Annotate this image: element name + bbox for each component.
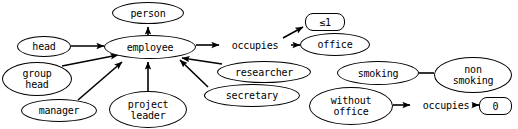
node-occupies-2[interactable]: occupies (411, 97, 481, 113)
edge-researcher-isa-employee (182, 58, 222, 64)
node-person[interactable]: person (112, 2, 184, 24)
node-secretary[interactable]: secretary (204, 84, 300, 107)
node-head[interactable]: head (17, 36, 71, 57)
edge-group-head-isa-employee (62, 55, 118, 66)
node-secretary-label: secretary (226, 90, 278, 101)
node-project-leader-label: project leader (128, 99, 169, 121)
node-occupies-1-label: occupies (232, 40, 279, 51)
node-smoking[interactable]: smoking (337, 61, 419, 85)
node-employee[interactable]: employee (104, 35, 196, 59)
node-office-label: office (318, 39, 353, 50)
node-occupies-2-label: occupies (423, 100, 470, 111)
node-non-smoking[interactable]: non smoking (434, 57, 512, 93)
node-person-label: person (131, 8, 166, 19)
node-researcher[interactable]: researcher (217, 61, 311, 83)
node-group-head-label: group head (22, 68, 51, 90)
node-cardinality-le-1-label: ≤1 (319, 17, 331, 28)
node-smoking-label: smoking (358, 68, 399, 79)
node-group-head[interactable]: group head (2, 62, 72, 96)
node-employee-label: employee (127, 42, 174, 53)
node-manager[interactable]: manager (21, 99, 97, 122)
node-head-label: head (32, 41, 55, 52)
node-project-leader[interactable]: project leader (109, 91, 187, 128)
node-cardinality-zero-label: 0 (493, 101, 499, 112)
node-cardinality-le-1[interactable]: ≤1 (305, 13, 345, 31)
node-without-office[interactable]: without office (309, 87, 393, 125)
node-researcher-label: researcher (235, 67, 293, 78)
node-occupies-1[interactable]: occupies (220, 37, 290, 53)
diagram-canvas: person employee head group head manager … (0, 0, 518, 129)
node-cardinality-zero[interactable]: 0 (479, 97, 512, 115)
edge-manager-isa-employee (78, 62, 122, 100)
edge-secretary-isa-employee (180, 60, 208, 87)
node-office[interactable]: office (300, 33, 370, 56)
node-without-office-label: without office (331, 95, 372, 117)
node-manager-label: manager (39, 105, 80, 116)
node-non-smoking-label: non smoking (453, 64, 494, 86)
